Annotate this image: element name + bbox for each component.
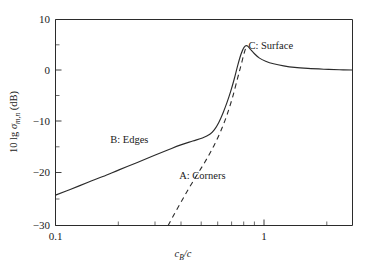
x-tick-label: 0.1 [49,230,63,242]
chart-svg: 10 0 −10 −20 −30 0.1 1 cB/c 10 lg σm,n (… [0,0,365,265]
x-axis-title: cB/c [175,248,192,262]
x-minor-ticks [118,222,326,226]
y-axis-title-sub: m,n [13,113,22,124]
y-axis-title-lead: 10 lg [8,129,19,153]
svg-text:cB/c: cB/c [175,248,192,262]
axes-frame [56,20,353,226]
y-axis-title-tail: (dB) [8,90,20,112]
y-axis-title: 10 lg σm,n (dB) [8,90,22,153]
x-tick-labels: 0.1 1 [49,230,267,242]
x-major-ticks [56,220,265,226]
annotation-a-corners: A: Corners [179,170,225,181]
y-tick-labels: 10 0 −10 −20 −30 [33,13,51,231]
y-tick-label: −20 [33,166,51,178]
y-minor-ticks [56,45,60,199]
y-tick-label: −10 [33,115,51,127]
annotation-b-edges: B: Edges [110,134,148,145]
y-tick-label: 10 [39,13,51,25]
y-tick-label: 0 [45,64,51,76]
chart-figure: 10 0 −10 −20 −30 0.1 1 cB/c 10 lg σm,n (… [0,0,365,265]
x-axis-title-tail: /c [183,248,192,259]
annotation-c-surface: C: Surface [248,40,293,51]
x-tick-label: 1 [261,230,267,242]
plot-box [56,20,353,226]
svg-text:10 lg σm,n (dB): 10 lg σm,n (dB) [8,90,22,153]
